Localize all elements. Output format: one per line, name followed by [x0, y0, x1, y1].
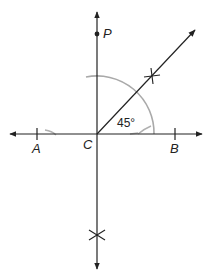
construction-arcs	[45, 76, 154, 135]
label-b: B	[170, 141, 179, 156]
geometry-diagram: P A C B 45°	[0, 0, 210, 277]
bisector-ray	[97, 30, 195, 134]
angle-label: 45°	[117, 116, 135, 130]
label-a: A	[31, 141, 41, 156]
label-c: C	[83, 137, 93, 152]
point-p	[95, 32, 100, 37]
small-arc-right	[138, 126, 151, 134]
label-p: P	[103, 26, 112, 41]
